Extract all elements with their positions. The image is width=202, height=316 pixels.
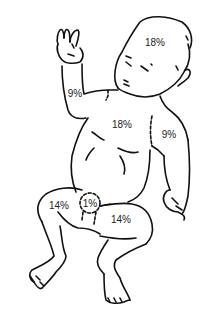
infant-rule-of-nines-diagram: 18% 9% 18% 9% 14% 1% 14% (0, 0, 202, 316)
head-outline (115, 17, 192, 97)
left-arm-percent-label: 9% (68, 89, 82, 99)
infant-outline-drawing (0, 0, 202, 316)
right-arm-outline (163, 140, 189, 220)
left-leg-percent-label: 14% (49, 201, 69, 211)
trunk-percent-label: 18% (112, 120, 132, 130)
head-percent-label: 18% (145, 38, 165, 48)
left-arm-outline (57, 29, 118, 118)
genitalia-percent-label: 1% (83, 199, 97, 209)
right-arm-percent-label: 9% (162, 130, 176, 140)
right-leg-percent-label: 14% (111, 215, 131, 225)
